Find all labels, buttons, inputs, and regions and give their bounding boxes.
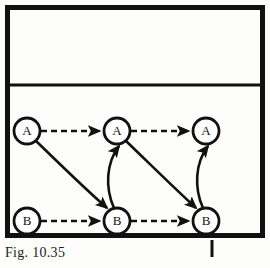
figure-container: A A A B B B Fig. 10.35 [0,0,270,268]
edge-B3-A3 [197,146,208,208]
edge-A1-B2 [36,141,107,208]
figure-caption: Fig. 10.35 [5,245,65,261]
node-B3-label: B [193,208,219,234]
outer-frame [8,8,263,236]
curved-edges [36,141,208,208]
node-A3-label: A [193,118,219,144]
node-B1-label: B [14,208,40,234]
figure-drawing [0,0,270,268]
node-A2-label: A [104,118,130,144]
edge-A2-B3 [126,141,196,208]
edge-B2-A2 [108,146,119,208]
node-B2-label: B [104,208,130,234]
node-A1-label: A [14,118,40,144]
